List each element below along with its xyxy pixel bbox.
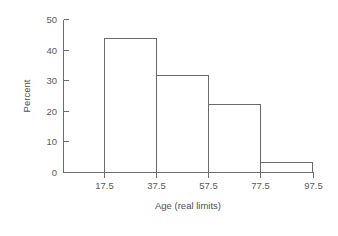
bar-77.5-97.5 xyxy=(261,163,313,173)
bar-series xyxy=(105,39,313,173)
x-tick-label-77.5: 77.5 xyxy=(251,180,270,191)
y-tick-label-10: 10 xyxy=(46,136,57,147)
x-axis-title: Age (real limits) xyxy=(155,200,221,211)
bar-37.5-57.5 xyxy=(157,76,209,173)
y-tick-label-40: 40 xyxy=(46,45,57,56)
x-tick-label-97.5: 97.5 xyxy=(304,180,323,191)
y-tick-label-50: 50 xyxy=(46,14,57,25)
y-tick-marks xyxy=(64,20,69,173)
histogram-figure: 50 40 30 20 10 0 17.5 37.5 57.5 77.5 97.… xyxy=(0,0,338,236)
x-tick-marks xyxy=(105,173,314,178)
y-axis-title: Percent xyxy=(21,79,32,112)
y-tick-labels: 50 40 30 20 10 0 xyxy=(46,14,57,178)
y-tick-label-0: 0 xyxy=(52,167,57,178)
bar-57.5-77.5 xyxy=(209,105,261,173)
y-tick-label-30: 30 xyxy=(46,75,57,86)
bar-17.5-37.5 xyxy=(105,39,157,173)
x-tick-labels: 17.5 37.5 57.5 77.5 97.5 xyxy=(95,180,323,191)
chart-canvas: 50 40 30 20 10 0 17.5 37.5 57.5 77.5 97.… xyxy=(0,0,338,236)
x-tick-label-17.5: 17.5 xyxy=(95,180,114,191)
y-tick-label-20: 20 xyxy=(46,106,57,117)
x-tick-label-57.5: 57.5 xyxy=(199,180,218,191)
x-tick-label-37.5: 37.5 xyxy=(147,180,166,191)
